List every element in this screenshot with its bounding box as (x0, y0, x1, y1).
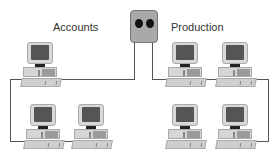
computer-icon (166, 42, 208, 88)
computer-icon (166, 104, 208, 150)
computer-icon (216, 104, 258, 150)
cable-production (152, 43, 153, 79)
cable-accounts (10, 79, 11, 141)
computer-icon (216, 42, 258, 88)
accounts-label: Accounts (53, 21, 98, 33)
computer-icon (21, 42, 63, 88)
cable-accounts (134, 43, 135, 79)
hub-port-icon (135, 19, 143, 28)
production-label: Production (171, 21, 224, 33)
hub-port-icon (146, 19, 154, 28)
cable-production (268, 79, 269, 141)
computer-icon (24, 104, 66, 150)
hub-icon (130, 10, 158, 43)
computer-icon (72, 104, 114, 150)
